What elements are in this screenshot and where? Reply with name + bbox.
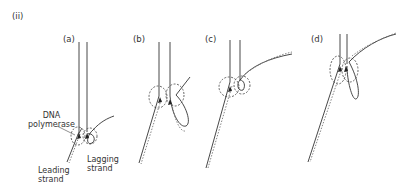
panel-c-drawing (206, 40, 292, 168)
panel-b-drawing (139, 42, 190, 164)
panel-d-drawing (308, 33, 396, 162)
replication-fork-diagram (0, 0, 413, 192)
panel-a-drawing (57, 42, 114, 163)
